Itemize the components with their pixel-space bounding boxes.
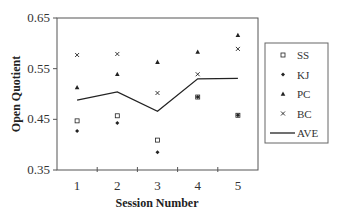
x-marker	[156, 91, 160, 95]
y-axis: 0.650.550.450.35	[27, 10, 57, 177]
x-marker	[115, 52, 119, 56]
triangle-marker	[115, 72, 120, 76]
x-tick-label: 2	[114, 178, 121, 193]
y-tick-label: 0.35	[27, 162, 50, 177]
x-marker	[196, 72, 200, 76]
open-square-marker	[115, 114, 119, 118]
legend-label: BC	[297, 108, 312, 120]
y-axis-title: Open Quotient	[9, 56, 23, 132]
x-tick-label: 1	[74, 178, 81, 193]
triangle-marker	[195, 49, 200, 53]
legend: SSKJPCBCAVE	[265, 43, 328, 143]
open-square-marker	[281, 53, 285, 57]
y-tick-label: 0.65	[27, 10, 50, 25]
open-square-marker	[156, 138, 160, 142]
diamond-marker	[115, 121, 119, 125]
x-marker	[75, 53, 79, 57]
x-tick-label: 5	[235, 178, 242, 193]
x-tick-label: 3	[154, 178, 161, 193]
triangle-marker	[155, 60, 160, 64]
series-pc	[75, 33, 240, 89]
open-square-marker	[75, 119, 79, 123]
triangle-marker	[236, 33, 241, 37]
diamond-marker	[156, 150, 160, 154]
series-ss	[75, 95, 240, 142]
triangle-marker	[75, 85, 80, 89]
series-bc	[75, 47, 240, 95]
series-kj	[75, 95, 240, 154]
series-ave	[77, 78, 238, 111]
diamond-marker	[75, 129, 79, 133]
legend-label: PC	[297, 88, 310, 100]
x-marker	[236, 47, 240, 51]
plot-area-border	[57, 18, 258, 170]
open-quotient-chart: 0.650.550.450.35 12345 Open Quotient Ses…	[0, 0, 337, 215]
data-series	[75, 33, 240, 155]
y-tick-label: 0.45	[27, 111, 50, 126]
x-axis: 12345	[74, 167, 241, 193]
legend-label: SS	[297, 49, 309, 61]
average-line	[77, 78, 238, 111]
legend-label: AVE	[297, 127, 318, 139]
x-tick-label: 4	[194, 178, 201, 193]
y-tick-label: 0.55	[27, 61, 50, 76]
plot-frame	[57, 18, 258, 170]
x-axis-title: Session Number	[115, 196, 199, 210]
legend-label: KJ	[297, 69, 310, 81]
